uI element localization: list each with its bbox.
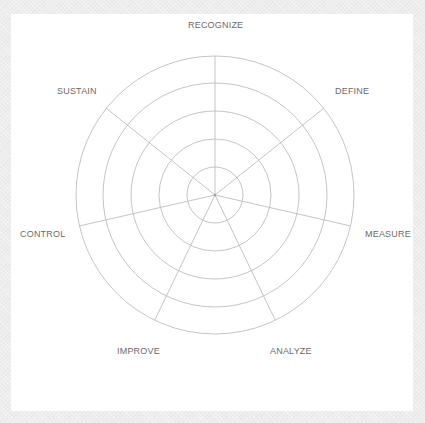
axis-label-measure: MEASURE — [365, 229, 411, 239]
center-hub — [214, 194, 216, 196]
axis-label-control: CONTROL — [20, 229, 65, 239]
spoke-measure — [215, 195, 351, 226]
spoke-control — [79, 195, 215, 226]
axis-label-analyze: ANALYZE — [270, 346, 312, 356]
spoke-improve — [155, 195, 215, 320]
axis-spokes — [79, 56, 350, 320]
axis-label-recognize: RECOGNIZE — [188, 20, 243, 30]
axis-label-define: DEFINE — [335, 86, 369, 96]
spoke-analyze — [215, 195, 275, 320]
axis-label-improve: IMPROVE — [117, 346, 160, 356]
axis-label-sustain: SUSTAIN — [57, 86, 97, 96]
radar-wheel-diagram — [0, 0, 425, 423]
